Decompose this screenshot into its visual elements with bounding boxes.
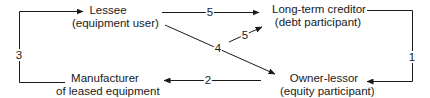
edge-5-diagonal-label: 5	[241, 29, 249, 41]
leasing-flow-diagram: Lessee (equipment user) Long-term credit…	[0, 0, 430, 98]
node-long-term-creditor: Long-term creditor (debt participant)	[272, 3, 364, 29]
edge-5-top-label: 5	[206, 6, 214, 18]
edge-4-label: 4	[214, 42, 222, 54]
node-lessee-subtitle: (equipment user)	[72, 17, 144, 30]
edge-1-line	[367, 11, 413, 82]
node-lessee-title: Lessee	[72, 4, 144, 17]
node-owner-lessor-title: Owner-lessor	[280, 72, 368, 85]
node-creditor-subtitle: (debt participant)	[272, 16, 364, 29]
node-owner-lessor-subtitle: (equity participant)	[280, 85, 368, 98]
node-manufacturer-title: Manufacturer	[56, 72, 154, 85]
node-manufacturer: Manufacturer of leased equipment	[56, 72, 154, 98]
edge-3-label: 3	[15, 49, 23, 61]
node-owner-lessor: Owner-lessor (equity participant)	[280, 72, 368, 98]
node-lessee: Lessee (equipment user)	[72, 4, 144, 30]
node-creditor-title: Long-term creditor	[272, 3, 364, 16]
node-manufacturer-subtitle: of leased equipment	[56, 85, 154, 98]
edge-1-label: 1	[408, 51, 416, 63]
edge-2-label: 2	[204, 74, 212, 86]
